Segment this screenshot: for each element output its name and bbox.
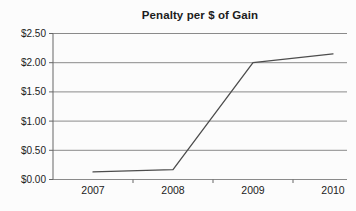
y-axis-label: $0.00: [21, 174, 46, 185]
x-axis-label: 2010: [321, 184, 345, 196]
y-axis-label: $1.00: [21, 116, 46, 127]
line-chart-plot: $0.00$0.50$1.00$1.50$2.00$2.502007200820…: [0, 0, 356, 211]
y-axis-label: $2.50: [21, 28, 46, 39]
y-axis-label: $1.50: [21, 86, 46, 97]
y-axis-label: $0.50: [21, 145, 46, 156]
x-axis-label: 2007: [81, 184, 105, 196]
y-axis-label: $2.00: [21, 57, 46, 68]
data-line-penalty-series: [93, 54, 333, 172]
x-axis-label: 2009: [241, 184, 265, 196]
chart-container: Penalty per $ of Gain $0.00$0.50$1.00$1.…: [0, 0, 356, 211]
x-axis-label: 2008: [161, 184, 185, 196]
